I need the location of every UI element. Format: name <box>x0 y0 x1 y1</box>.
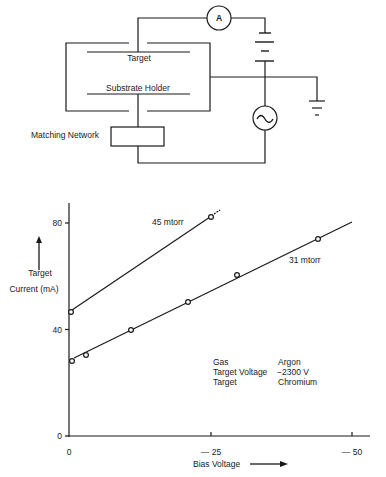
matching-network-box <box>111 127 164 146</box>
y-tick-40: 40 <box>53 325 63 335</box>
conditions-annotation: Gas Argon Target Voltage −2300 V Target … <box>213 357 317 387</box>
target-label: Target <box>127 53 151 63</box>
y-tick-80: 80 <box>53 218 63 228</box>
x-tick-0: 0 <box>67 447 72 457</box>
x-tick-25: — 25 <box>201 447 222 457</box>
wire-ammeter-to-battery <box>231 18 265 33</box>
battery-icon <box>255 33 274 61</box>
series-31-mtorr <box>70 222 352 363</box>
chart: 80 40 0 0 — 25 — 50 Target Current (mA) … <box>9 203 370 469</box>
svg-text:Chromium: Chromium <box>278 377 317 387</box>
figure: A Target Substrate Holder Matching Netwo… <box>0 0 386 477</box>
matching-network-label: Matching Network <box>31 130 100 140</box>
svg-text:−2300 V: −2300 V <box>277 367 309 377</box>
series-label-31-mtorr: 31 mtorr <box>289 255 321 265</box>
svg-text:Argon: Argon <box>278 357 301 367</box>
ammeter-label: A <box>216 13 222 23</box>
wire-target-to-ammeter <box>138 18 207 52</box>
y-axis-label-1: Target <box>28 268 52 278</box>
svg-text:Target: Target <box>213 377 237 387</box>
ground-icon <box>309 101 325 115</box>
series-45-mtorr <box>69 210 220 314</box>
circuit-diagram <box>66 6 325 163</box>
x-arrow-icon <box>250 461 288 467</box>
y-arrow-icon <box>36 236 42 270</box>
svg-text:Target Voltage: Target Voltage <box>213 367 268 377</box>
wire-chamber-to-ground <box>210 77 317 101</box>
y-axis-label-2: Current (mA) <box>9 284 58 294</box>
x-tick-50: — 50 <box>342 447 363 457</box>
svg-text:Gas: Gas <box>213 357 229 367</box>
axes <box>65 203 370 437</box>
x-axis-label: Bias Voltage <box>193 459 241 469</box>
series-label-45-mtorr: 45 mtorr <box>152 217 184 227</box>
y-tick-0: 0 <box>57 431 62 441</box>
substrate-holder-label: Substrate Holder <box>106 83 170 93</box>
